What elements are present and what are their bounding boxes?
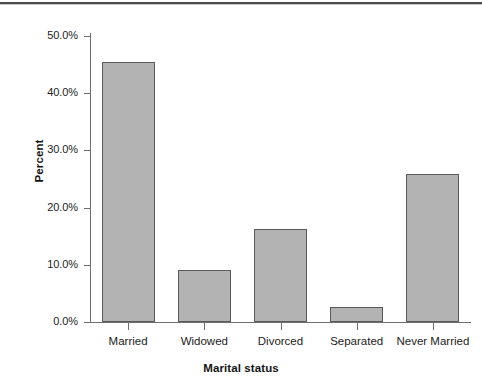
y-axis-line <box>90 33 91 323</box>
bar <box>330 307 383 322</box>
y-tick-mark <box>84 208 91 209</box>
y-tick-label: 10.0% <box>28 259 78 270</box>
bar <box>254 229 307 322</box>
bar-chart-figure: 0.0%10.0%20.0%30.0%40.0%50.0% MarriedWid… <box>0 0 482 385</box>
x-tick-mark <box>128 323 129 330</box>
x-tick-mark <box>357 323 358 330</box>
x-axis-title: Marital status <box>0 362 482 374</box>
y-tick-mark <box>84 322 91 323</box>
y-tick-label: 40.0% <box>28 87 78 98</box>
y-tick-label-text: 0.0% <box>30 316 78 327</box>
y-tick-label-text: 20.0% <box>30 202 78 213</box>
y-tick-label-text: 10.0% <box>30 259 78 270</box>
x-tick-mark <box>281 323 282 330</box>
y-tick-mark <box>84 93 91 94</box>
y-axis-title: Percent <box>33 140 45 183</box>
page-top-rule-shadow <box>0 4 482 5</box>
bar <box>102 62 155 322</box>
bar <box>178 270 231 322</box>
y-tick-label: 20.0% <box>28 202 78 213</box>
bar <box>406 174 459 322</box>
y-tick-mark <box>84 36 91 37</box>
y-tick-mark <box>84 265 91 266</box>
x-tick-mark <box>204 323 205 330</box>
y-tick-label-text: 50.0% <box>30 30 78 41</box>
y-tick-label: 50.0% <box>28 30 78 41</box>
y-tick-mark <box>84 150 91 151</box>
x-tick-mark <box>433 323 434 330</box>
x-tick-label: Never Married <box>385 335 481 348</box>
y-tick-label-text: 40.0% <box>30 87 78 98</box>
y-tick-label: 0.0% <box>28 316 78 327</box>
